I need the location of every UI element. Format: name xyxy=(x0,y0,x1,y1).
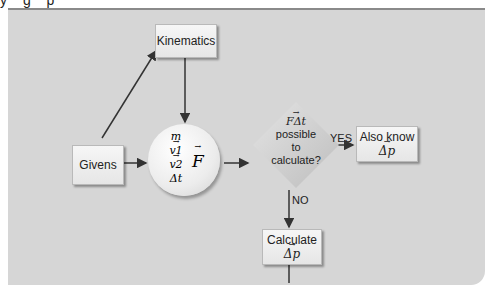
decision-line2: possible xyxy=(252,128,340,141)
decision-line1: FΔt xyxy=(286,115,306,128)
givens-box: Givens xyxy=(72,145,124,185)
variables-circle: m v1 v2 Δt F xyxy=(148,124,220,196)
decision-line3: to xyxy=(252,141,340,154)
kinematics-label: Kinematics xyxy=(157,34,216,48)
connector-arrows xyxy=(0,0,492,286)
var-v2: v2 xyxy=(169,158,182,172)
yes-label: YES xyxy=(330,132,352,144)
no-label: NO xyxy=(292,194,309,206)
givens-label: Givens xyxy=(79,158,116,172)
var-delta-t: Δt xyxy=(164,172,188,186)
decision-line4: calculate? xyxy=(252,154,340,167)
decision-diamond: FΔt possible to calculate? xyxy=(252,101,340,189)
kinematics-box: Kinematics xyxy=(155,24,217,58)
calculate-momentum-box: Calculate Δp xyxy=(262,229,322,265)
also-know-momentum-box: Also know Δp xyxy=(356,126,418,162)
calculate-p-line2: Δp xyxy=(284,247,300,261)
also-know-p-line2: Δp xyxy=(379,144,395,158)
force-result: F xyxy=(192,151,204,171)
